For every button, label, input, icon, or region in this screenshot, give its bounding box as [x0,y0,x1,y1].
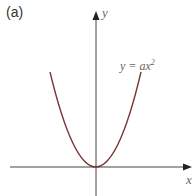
curve-equation-exponent: 2 [151,58,155,67]
parabola-figure: (a) x y y = ax2 [0,0,194,196]
curve-equation-label: y = ax2 [119,58,155,73]
y-axis-label: y [100,5,108,20]
curve-equation-main: y = ax [119,59,151,73]
plot-canvas: x y y = ax2 [0,0,194,196]
x-axis-label: x [185,172,192,187]
x-axis-arrow-icon [183,164,192,171]
y-axis-arrow-icon [93,11,100,20]
